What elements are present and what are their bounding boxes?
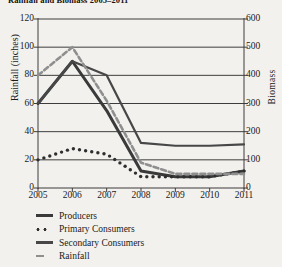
legend-item[interactable]: Primary Consumers: [36, 223, 236, 237]
data-point-dotted: [207, 175, 210, 178]
data-point-dotted: [158, 175, 161, 178]
data-point-dotted: [54, 152, 57, 155]
data-point-dotted: [151, 175, 154, 178]
data-point-dotted: [145, 175, 148, 178]
data-point-dotted: [108, 154, 111, 157]
data-point-dotted: [42, 156, 45, 159]
data-point-dotted: [78, 148, 81, 151]
chart-figure: Rainfall and Biomass 2005–2011 Rainfall …: [0, 0, 282, 267]
data-point-dotted: [242, 169, 245, 172]
legend-item-label: Rainfall: [59, 251, 90, 261]
data-point-dotted: [48, 154, 51, 157]
data-point-dotted: [90, 150, 93, 153]
legend-swatch-icon: [36, 238, 53, 248]
legend-item[interactable]: Secondary Consumers: [36, 236, 236, 250]
data-point-dotted: [195, 175, 198, 178]
axis-tickmarks: [34, 19, 248, 192]
data-point-dotted: [201, 175, 204, 178]
data-point-dotted: [36, 158, 39, 161]
data-point-dotted: [182, 175, 185, 178]
data-point-dotted: [113, 158, 116, 161]
data-point-dotted: [118, 161, 121, 164]
data-point-dotted: [72, 147, 75, 150]
legend-item-label: Secondary Consumers: [59, 238, 144, 248]
legend-swatch-icon: [36, 251, 53, 261]
data-point-dotted: [189, 175, 192, 178]
data-point-dotted: [66, 148, 69, 151]
data-point-dotted: [170, 175, 173, 178]
legend-swatch-icon: [36, 224, 53, 234]
data-point-dotted: [164, 175, 167, 178]
data-point-dotted: [139, 175, 142, 178]
data-point-dotted: [102, 152, 105, 155]
data-point-dotted: [60, 150, 63, 153]
data-point-dotted: [123, 165, 126, 168]
legend-item-label: Producers: [59, 211, 97, 221]
legend-item-label: Primary Consumers: [59, 224, 135, 234]
data-point-dotted: [96, 151, 99, 154]
data-point-dotted: [84, 149, 87, 152]
chart-legend: ProducersPrimary ConsumersSecondary Cons…: [36, 209, 236, 263]
data-series-group: [36, 47, 245, 178]
data-point-dotted: [134, 171, 137, 174]
legend-item[interactable]: Rainfall: [36, 250, 236, 264]
legend-item[interactable]: Producers: [36, 209, 236, 223]
data-point-dotted: [129, 168, 132, 171]
data-point-dotted: [176, 175, 179, 178]
legend-swatch-icon: [36, 211, 53, 221]
